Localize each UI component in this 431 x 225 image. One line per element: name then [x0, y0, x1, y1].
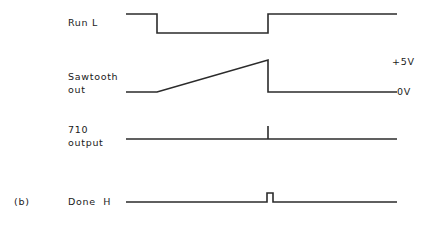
signal-label-done-h: Done H [68, 196, 111, 208]
waveform-run-l [126, 14, 397, 33]
signal-label-710-line1: 710 [68, 124, 88, 135]
signal-label-sawtooth-line1: Sawtooth [68, 71, 118, 82]
signal-label-sawtooth-line2: out [68, 84, 86, 95]
waveform-canvas [0, 0, 431, 225]
figure-caption: (b) [14, 196, 30, 208]
signal-label-710-line2: output [68, 137, 104, 148]
timing-diagram-figure: (b) Run L Sawtoothout 710output Done H +… [0, 0, 431, 225]
voltage-label-high: +5V [392, 56, 415, 68]
signal-label-sawtooth-out: Sawtoothout [68, 70, 118, 96]
signal-label-run-l: Run L [68, 17, 98, 29]
signal-label-710-output: 710output [68, 123, 104, 149]
voltage-label-low: 0V [397, 86, 411, 98]
waveform-done-h [126, 193, 397, 202]
waveform-sawtooth-out [126, 60, 397, 92]
